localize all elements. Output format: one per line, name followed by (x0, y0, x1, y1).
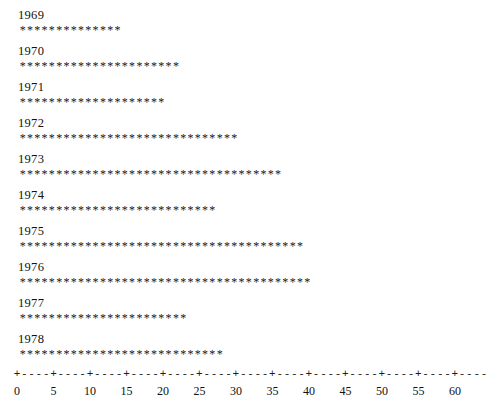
star-mark: * (136, 348, 143, 360)
axis-fill-mark: - (218, 368, 225, 380)
star-mark: * (231, 132, 238, 144)
axis-fill-mark: - (473, 368, 480, 380)
star-mark: * (63, 168, 70, 180)
star-mark: * (143, 204, 150, 216)
plot-row: 1973************************************ (18, 152, 311, 188)
axis-fill-mark: - (254, 368, 261, 380)
star-mark: * (253, 168, 260, 180)
star-mark: * (19, 240, 26, 252)
star-mark: * (172, 60, 179, 72)
axis-tick-mark: + (342, 368, 349, 380)
star-mark: * (253, 276, 260, 288)
star-mark: * (238, 276, 245, 288)
star-mark: * (34, 24, 41, 36)
star-mark: * (223, 240, 230, 252)
axis-tick-label: 10 (84, 384, 96, 398)
star-mark: * (41, 276, 48, 288)
axis-fill-mark: - (371, 368, 378, 380)
star-mark: * (26, 204, 33, 216)
star-mark: * (26, 312, 33, 324)
star-mark: * (216, 240, 223, 252)
axis-tick-label: 0 (14, 384, 20, 398)
star-mark: * (216, 168, 223, 180)
row-star-bar: *************************************** (19, 240, 311, 254)
star-mark: * (55, 312, 62, 324)
star-mark: * (209, 276, 216, 288)
star-mark: * (260, 276, 267, 288)
star-mark: * (172, 204, 179, 216)
star-mark: * (128, 60, 135, 72)
star-mark: * (187, 240, 194, 252)
star-mark: * (128, 204, 135, 216)
star-mark: * (158, 132, 165, 144)
star-mark: * (158, 168, 165, 180)
star-mark: * (63, 240, 70, 252)
axis-fill-mark: - (458, 368, 465, 380)
axis-fill-mark: - (137, 368, 144, 380)
plot-rows: 1969**************1970******************… (18, 8, 311, 368)
star-mark: * (85, 132, 92, 144)
axis-fill-mark: - (247, 368, 254, 380)
axis-tick-mark: + (13, 368, 20, 380)
star-mark: * (296, 240, 303, 252)
row-star-bar: **************************************** (19, 276, 311, 290)
row-star-bar: ************************************ (19, 168, 311, 182)
star-mark: * (55, 132, 62, 144)
star-mark: * (92, 312, 99, 324)
plot-row: 1978**************************** (18, 332, 311, 368)
axis-fill-mark: - (130, 368, 137, 380)
star-mark: * (48, 348, 55, 360)
star-mark: * (55, 204, 62, 216)
star-mark: * (92, 24, 99, 36)
star-mark: * (55, 96, 62, 108)
star-mark: * (231, 240, 238, 252)
star-mark: * (194, 348, 201, 360)
star-mark: * (180, 276, 187, 288)
star-mark: * (128, 312, 135, 324)
star-mark: * (282, 276, 289, 288)
axis-fill-mark: - (225, 368, 232, 380)
star-mark: * (172, 240, 179, 252)
plot-row: 1974*************************** (18, 188, 311, 224)
plot-row: 1970********************** (18, 44, 311, 80)
star-mark: * (19, 348, 26, 360)
star-mark: * (63, 132, 70, 144)
star-mark: * (187, 168, 194, 180)
star-mark: * (180, 168, 187, 180)
star-mark: * (107, 96, 114, 108)
star-mark: * (136, 132, 143, 144)
row-star-bar: *********************** (19, 312, 311, 326)
star-mark: * (99, 312, 106, 324)
axis-fill-mark: - (313, 368, 320, 380)
star-mark: * (121, 204, 128, 216)
axis-tick-mark: + (50, 368, 57, 380)
axis-fill-mark: - (283, 368, 290, 380)
row-star-bar: ********************** (19, 60, 311, 74)
star-mark: * (41, 96, 48, 108)
axis-fill-mark: - (334, 368, 341, 380)
star-mark: * (136, 240, 143, 252)
star-mark: * (99, 60, 106, 72)
star-mark: * (99, 132, 106, 144)
star-mark: * (70, 132, 77, 144)
star-mark: * (267, 276, 274, 288)
star-mark: * (77, 312, 84, 324)
star-mark: * (194, 276, 201, 288)
axis-tick-mark: + (378, 368, 385, 380)
star-mark: * (187, 276, 194, 288)
star-mark: * (158, 240, 165, 252)
star-mark: * (209, 348, 216, 360)
star-mark: * (223, 168, 230, 180)
star-mark: * (70, 348, 77, 360)
star-mark: * (180, 204, 187, 216)
star-mark: * (201, 204, 208, 216)
star-mark: * (209, 168, 216, 180)
star-mark: * (107, 312, 114, 324)
axis-fill-mark: - (72, 368, 79, 380)
axis-tick-label: 20 (157, 384, 169, 398)
star-mark: * (121, 132, 128, 144)
star-mark: * (92, 132, 99, 144)
star-mark: * (267, 240, 274, 252)
star-mark: * (158, 312, 165, 324)
star-mark: * (70, 168, 77, 180)
